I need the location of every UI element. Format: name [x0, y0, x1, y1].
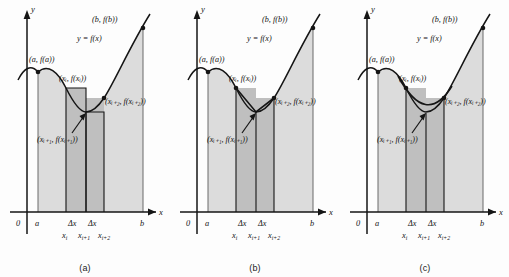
tick-xi2: xi+2: [97, 231, 110, 241]
x-axis-arrow-icon: [318, 209, 326, 216]
panel-b: y x 0 a b Δx Δx xi xi+1 xi+2 (a, f(a)) (…: [170, 0, 340, 277]
label-point-xi: (xᵢ, f(xᵢ)): [59, 74, 86, 83]
label-point-xi2: (xᵢ₊₂, f(xᵢ₊₂)): [275, 97, 316, 106]
tick-b: b: [480, 219, 484, 228]
delta-x-left: Δx: [237, 219, 247, 228]
label-point-a: (a, f(a)): [199, 55, 225, 64]
strip-right: [86, 98, 104, 212]
tick-xi: xi: [61, 231, 68, 241]
x-axis-arrow-icon: [148, 209, 156, 216]
tick-b: b: [310, 219, 314, 228]
x-axis-label: x: [498, 207, 503, 217]
tick-xi: xi: [401, 231, 408, 241]
y-axis-arrow-icon: [194, 10, 201, 19]
label-point-xi1: (xᵢ₊₁, f(xᵢ₊₁)): [377, 135, 418, 144]
delta-x-left: Δx: [407, 219, 417, 228]
delta-x-right: Δx: [87, 219, 97, 228]
label-point-xi2: (xᵢ₊₂, f(xᵢ₊₂)): [105, 97, 146, 106]
point-b: [141, 26, 146, 31]
y-axis-arrow-icon: [364, 10, 371, 19]
delta-x-left: Δx: [67, 219, 77, 228]
delta-x-right: Δx: [257, 219, 267, 228]
label-point-a: (a, f(a)): [29, 55, 55, 64]
tick-xi: xi: [231, 231, 238, 241]
point-a: [376, 70, 381, 75]
point-b: [311, 26, 316, 31]
panel-a: y x 0 a b Δx Δx xi xi+1 xi+2 (a, f(a)) (…: [0, 0, 170, 277]
panel-b-caption: (b): [170, 263, 340, 273]
label-point-xi1: (xᵢ₊₁, f(xᵢ₊₁)): [37, 135, 78, 144]
y-axis-label: y: [370, 4, 375, 14]
label-point-xi1: (xᵢ₊₁, f(xᵢ₊₁)): [207, 135, 248, 144]
point-a: [206, 70, 211, 75]
label-curve: y = f(x): [76, 34, 102, 43]
label-point-a: (a, f(a)): [369, 55, 395, 64]
tick-xi1: xi+1: [77, 231, 90, 241]
tick-xi2: xi+2: [267, 231, 280, 241]
tick-xi1: xi+1: [247, 231, 260, 241]
y-axis-arrow-icon: [24, 10, 31, 19]
strip-right: [256, 98, 274, 212]
panel-c: y x 0 a b Δx Δx xi xi+1 xi+2 (a, f(a)) (…: [340, 0, 509, 277]
tick-xi1: xi+1: [417, 231, 430, 241]
label-point-b: (b, f(b)): [432, 15, 458, 24]
label-point-xi: (xᵢ, f(xᵢ)): [229, 74, 256, 83]
tick-a: a: [205, 219, 209, 228]
origin-label: 0: [16, 219, 21, 228]
tick-xi2: xi+2: [437, 231, 450, 241]
figure-container: y x 0 a b Δx Δx xi xi+1 xi+2 (a, f(a)) (…: [0, 0, 509, 277]
label-curve: y = f(x): [416, 34, 442, 43]
x-axis-label: x: [158, 207, 163, 217]
point-xi: [234, 86, 239, 91]
label-point-xi2: (xᵢ₊₂, f(xᵢ₊₂)): [445, 97, 486, 106]
point-b: [481, 26, 486, 31]
tick-a: a: [35, 219, 39, 228]
tick-a: a: [375, 219, 379, 228]
origin-label: 0: [356, 219, 361, 228]
panel-a-caption: (a): [0, 263, 170, 273]
label-point-b: (b, f(b)): [92, 15, 118, 24]
label-curve: y = f(x): [246, 34, 272, 43]
point-xi: [404, 86, 409, 91]
point-a: [36, 70, 41, 75]
delta-x-right: Δx: [427, 219, 437, 228]
x-axis-label: x: [328, 207, 333, 217]
panel-c-caption: (c): [340, 263, 509, 273]
label-point-b: (b, f(b)): [262, 15, 288, 24]
strip-right: [426, 98, 444, 212]
y-axis-label: y: [200, 4, 205, 14]
x-axis-arrow-icon: [488, 209, 496, 216]
label-point-xi: (xᵢ, f(xᵢ)): [399, 74, 426, 83]
y-axis-label: y: [30, 4, 35, 14]
origin-label: 0: [186, 219, 191, 228]
tick-b: b: [140, 219, 144, 228]
